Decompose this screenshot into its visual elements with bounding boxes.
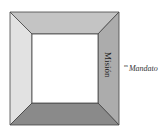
mandato-label: mMandato <box>124 63 158 73</box>
center-panel <box>32 34 98 103</box>
mandato-superscript: m <box>124 63 128 68</box>
mandato-text: Mandato <box>129 64 158 73</box>
right-panel-label: Misión <box>103 52 113 78</box>
